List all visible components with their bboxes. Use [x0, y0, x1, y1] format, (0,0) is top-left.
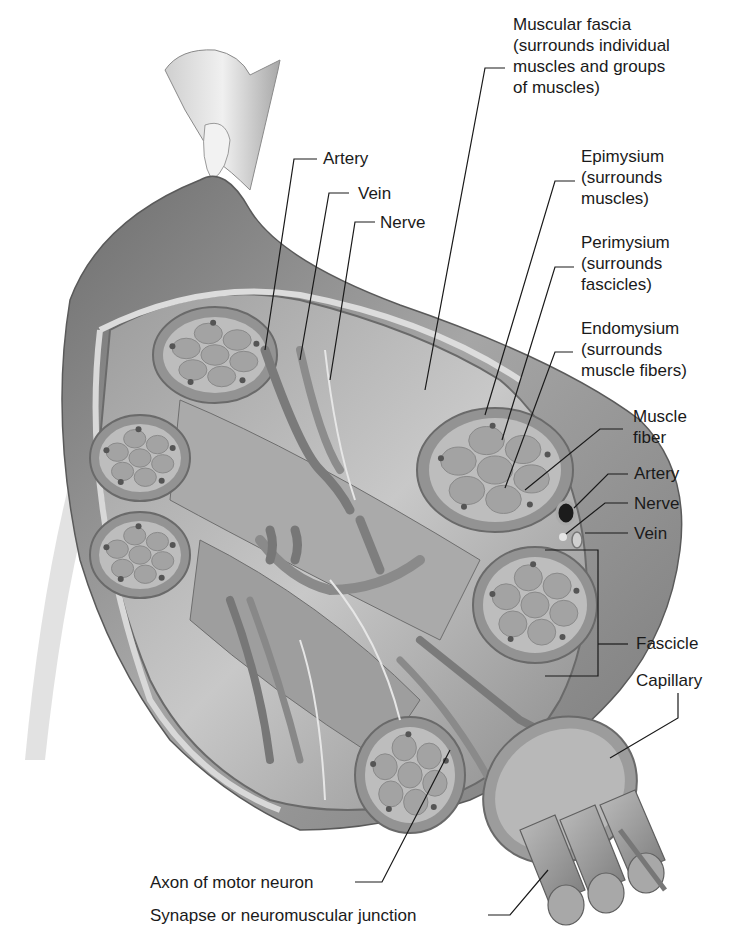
muscle-fiber-cell	[404, 789, 428, 815]
muscle-fiber-cell	[543, 573, 571, 599]
muscle-fiber-cell	[550, 600, 578, 626]
nucleus	[253, 341, 259, 347]
nucleus	[239, 377, 245, 383]
label-line: Perimysium	[581, 232, 670, 253]
nucleus	[405, 731, 411, 737]
vein-right-marker	[572, 532, 582, 548]
muscle-fiber-cell	[208, 366, 236, 387]
muscle-fiber-cell	[106, 443, 128, 461]
nucleus	[508, 636, 514, 642]
muscle-fiber-cell	[379, 781, 403, 807]
muscle-fiber-cell	[129, 546, 151, 564]
label-vein-top: Vein	[358, 183, 391, 204]
label-line: (surrounds	[581, 167, 664, 188]
label-muscular-fascia: Muscular fascia (surrounds individual mu…	[513, 14, 670, 98]
label-artery-top: Artery	[323, 148, 368, 169]
label-epimysium: Epimysium (surrounds muscles)	[581, 146, 664, 209]
label-artery-right: Artery	[634, 463, 679, 484]
label-line: of muscles)	[513, 77, 670, 98]
label-line: Epimysium	[581, 146, 664, 167]
muscle-fiber-cell	[449, 476, 485, 504]
label-line: fascicles)	[581, 274, 670, 295]
muscle-fiber-cell	[201, 345, 229, 366]
nucleus	[170, 542, 176, 548]
nucleus	[438, 455, 444, 461]
muscle-fiber-cell	[499, 611, 527, 637]
muscle-fiber-cell	[124, 527, 146, 545]
label-line: Muscle	[633, 406, 687, 427]
muscle-fiber-cell	[417, 743, 441, 769]
label-line: (surrounds	[581, 253, 670, 274]
muscle-fiber-cell	[486, 485, 522, 513]
label-vein-right: Vein	[634, 523, 667, 544]
muscle-fiber-cell	[111, 559, 133, 577]
nucleus	[559, 634, 565, 640]
label-nerve-right: Nerve	[634, 493, 679, 514]
nucleus	[530, 561, 536, 567]
muscle-fiber-cell	[528, 619, 556, 645]
nucleus	[103, 447, 109, 453]
nucleus	[169, 343, 175, 349]
nucleus	[170, 445, 176, 451]
muscle-fiber-cell	[152, 455, 174, 473]
muscle-fiber-cell	[106, 540, 128, 558]
muscle-fiber-cell	[223, 330, 251, 351]
nucleus	[136, 426, 142, 432]
label-line: Muscular fascia	[513, 14, 670, 35]
muscle-fiber-cell	[134, 565, 156, 583]
muscle-fiber-cell	[129, 449, 151, 467]
label-nerve-top: Nerve	[380, 212, 425, 233]
nucleus	[103, 544, 109, 550]
muscle-fiber-cell	[146, 532, 168, 550]
nucleus	[159, 575, 165, 581]
nucleus	[188, 379, 194, 385]
muscle-fiber-cell	[194, 323, 222, 344]
nucleus	[370, 761, 376, 767]
muscle-fiber-cell	[111, 462, 133, 480]
label-capillary: Capillary	[636, 670, 702, 691]
label-line: muscles)	[581, 188, 664, 209]
label-line: muscle fibers)	[581, 360, 687, 381]
nucleus	[118, 479, 124, 485]
nucleus	[118, 576, 124, 582]
nucleus	[386, 806, 392, 812]
muscle-fiber-cell	[146, 435, 168, 453]
label-line: (surrounds individual	[513, 35, 670, 56]
muscle-fiber-cell	[172, 338, 200, 359]
artery-right-marker	[557, 502, 575, 524]
muscle-fiber-cell	[441, 447, 477, 475]
label-synapse: Synapse or neuromuscular junction	[150, 905, 416, 926]
muscle-fiber-cell	[373, 754, 397, 780]
nucleus	[159, 478, 165, 484]
muscle-fiber-cell	[514, 465, 550, 493]
label-line: muscles and groups	[513, 56, 670, 77]
label-line: fiber	[633, 427, 687, 448]
label-fascicle: Fascicle	[636, 633, 698, 654]
muscle-fiber-cell	[469, 427, 505, 455]
tendon-fibers	[204, 123, 230, 180]
label-axon-motor-neuron: Axon of motor neuron	[150, 872, 313, 893]
nucleus	[431, 804, 437, 810]
label-muscle-fiber: Muscle fiber	[633, 406, 687, 448]
muscle-fiber-cell	[398, 762, 422, 788]
muscle-fiber-cell	[230, 351, 258, 372]
muscle-fiber-cell	[492, 584, 520, 610]
nucleus	[573, 588, 579, 594]
nucleus	[461, 504, 467, 510]
muscle-fiber-cell	[124, 430, 146, 448]
muscle-fiber-cell	[514, 565, 542, 591]
nucleus	[136, 523, 142, 529]
nucleus	[210, 320, 216, 326]
label-endomysium: Endomysium (surrounds muscle fibers)	[581, 318, 687, 381]
nucleus	[490, 423, 496, 429]
muscle-fiber-cell	[392, 735, 416, 761]
nucleus	[545, 452, 551, 458]
label-perimysium: Perimysium (surrounds fascicles)	[581, 232, 670, 295]
muscle-fiber-cell	[179, 360, 207, 381]
muscle-fiber-cell	[152, 552, 174, 570]
muscle-fiber-cell	[134, 468, 156, 486]
muscle-fiber-cell	[521, 592, 549, 618]
muscle-fiber-cell	[423, 770, 447, 796]
nucleus	[527, 502, 533, 508]
nucleus	[489, 591, 495, 597]
